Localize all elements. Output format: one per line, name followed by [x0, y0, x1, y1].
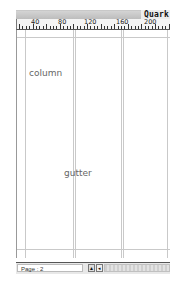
ruler-tick [80, 26, 81, 29]
page-nav-icon[interactable]: ◂ [96, 264, 103, 272]
ruler-tick [141, 24, 142, 29]
ruler-tick [43, 26, 44, 29]
ruler-label: 160 [116, 19, 128, 26]
ruler-tick [77, 26, 78, 29]
ruler-tick [90, 26, 91, 29]
document-window: Quark 4080120160200 column gutter Page :… [16, 10, 170, 276]
ruler-tick [104, 26, 105, 29]
ruler-label: 80 [58, 19, 66, 26]
right-margin-guide [167, 30, 168, 258]
ruler-tick [97, 26, 98, 29]
ruler-tick [29, 26, 30, 29]
ruler-tick [148, 26, 149, 29]
column-label: column [29, 68, 62, 78]
ruler-tick [84, 26, 85, 29]
ruler-tick [111, 26, 112, 29]
ruler-tick [145, 26, 146, 29]
ruler-tick [121, 26, 122, 29]
ruler-label: 200 [144, 19, 156, 26]
column-guide-1b [75, 30, 76, 258]
column-guide-2a [121, 30, 122, 258]
ruler-tick [56, 26, 57, 29]
left-margin-guide [25, 30, 26, 258]
ruler-tick [101, 24, 102, 29]
page-number-field[interactable]: Page : 2 [17, 264, 83, 272]
ruler-tick [39, 26, 40, 29]
horizontal-ruler[interactable]: 4080120160200 [16, 19, 170, 30]
ruler-tick [70, 26, 71, 29]
ruler-tick [53, 26, 54, 29]
ruler-tick [19, 24, 20, 29]
popup-arrow-icon[interactable]: ▲ [88, 264, 95, 272]
ruler-tick [50, 26, 51, 29]
ruler-tick [36, 26, 37, 29]
ruler-tick [124, 26, 125, 29]
ruler-label: 120 [84, 19, 96, 26]
ruler-tick [107, 26, 108, 29]
ruler-tick [138, 26, 139, 29]
ruler-tick [169, 24, 170, 29]
horizontal-scrollbar[interactable] [104, 264, 170, 272]
top-margin-guide [17, 37, 170, 38]
ruler-tick [63, 26, 64, 29]
document-page[interactable]: column gutter [16, 30, 170, 258]
ruler-tick [162, 26, 163, 29]
column-guide-2b [123, 30, 124, 258]
ruler-tick [165, 26, 166, 29]
ruler-tick [26, 26, 27, 29]
ruler-tick [131, 26, 132, 29]
bottom-margin-guide [17, 249, 170, 250]
ruler-tick [135, 26, 136, 29]
ruler-tick [46, 24, 47, 29]
gutter-label: gutter [64, 168, 92, 178]
ruler-label: 40 [31, 19, 39, 26]
column-guide-1a [73, 30, 74, 258]
ruler-tick [118, 26, 119, 29]
status-bar: Page : 2 ▲ ◂ [16, 262, 170, 274]
ruler-tick [73, 24, 74, 29]
ruler-tick [67, 26, 68, 29]
ruler-tick [152, 26, 153, 29]
ruler-tick [22, 26, 23, 29]
ruler-tick [158, 26, 159, 29]
ruler-tick [94, 26, 95, 29]
